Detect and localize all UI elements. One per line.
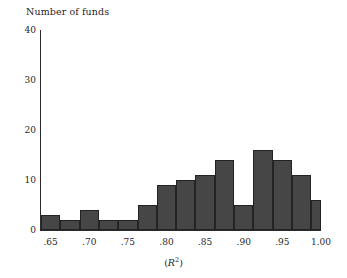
x-axis-tick-.85: .85 [188,238,222,247]
histogram-bar [176,180,195,230]
histogram-bar [253,150,272,230]
x-axis-tick-.70: .70 [72,238,106,247]
histogram-bar [60,220,79,230]
x-axis-tick-.90: .90 [227,238,261,247]
histogram-bar [118,220,137,230]
x-axis-tick-.75: .75 [111,238,145,247]
histogram-bar [157,185,176,230]
histogram-bar [273,160,292,230]
histogram-bar [292,175,311,230]
y-axis-tick-20: 20 [14,126,36,135]
y-axis-tick-30: 30 [14,76,36,85]
histogram-bar [80,210,99,230]
y-axis-tick-0: 0 [14,226,36,235]
histogram-figure: Number of funds 010203040 .65.70.75.80.8… [0,0,347,278]
y-axis-tick-10: 10 [14,176,36,185]
histogram-bar [138,205,157,230]
histogram-bar [195,175,214,230]
x-axis-title: (R2) [0,256,347,268]
y-axis-title: Number of funds [26,6,109,17]
histogram-bar [311,200,321,230]
x-axis-tick-.95: .95 [265,238,299,247]
x-axis-line [40,230,321,231]
y-axis-tick-40: 40 [14,26,36,35]
x-axis-tick-.80: .80 [150,238,184,247]
histogram-bar [215,160,234,230]
histogram-bar [234,205,253,230]
x-axis-tick-.65: .65 [34,238,68,247]
histogram-bar [99,220,118,230]
histogram-bar [41,215,60,230]
x-axis-tick-1.00: 1.00 [304,238,338,247]
plot-area [41,30,321,230]
